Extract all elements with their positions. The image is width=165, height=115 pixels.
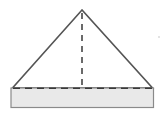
geometry-figure [0,0,165,115]
base-rectangle [11,88,154,108]
edge-artifact [158,36,160,38]
